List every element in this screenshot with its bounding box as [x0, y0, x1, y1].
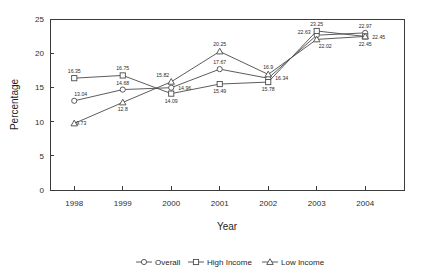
- x-tick-label: 2003: [308, 199, 326, 208]
- marker-square-high-income-1999: [120, 73, 125, 78]
- data-label-low-income-1998: 9.73: [76, 120, 86, 126]
- data-label-high-income-1999: 16.75: [116, 65, 129, 71]
- data-label-high-income-2000: 14.09: [165, 98, 178, 104]
- chart-container: 05101520251998199920002001200220032004Pe…: [0, 0, 432, 279]
- x-tick-label: 1999: [114, 199, 132, 208]
- data-label-overall-2002: 16.34: [275, 75, 288, 81]
- data-label-high-income-2003: 23.25: [310, 21, 323, 27]
- marker-circle-overall-2001: [217, 67, 222, 72]
- x-tick-label: 2002: [259, 199, 277, 208]
- data-label-low-income-2001: 20.25: [213, 41, 226, 47]
- data-label-low-income-2002: 16.9: [263, 64, 273, 70]
- marker-triangle-low-income-2000: [168, 79, 175, 85]
- line-chart: 05101520251998199920002001200220032004Pe…: [0, 0, 432, 279]
- marker-square-high-income-2003: [314, 28, 319, 33]
- y-tick-label: 0: [40, 186, 45, 195]
- x-tick-label: 1998: [65, 199, 83, 208]
- data-label-high-income-2002: 15.78: [262, 86, 275, 92]
- data-label-low-income-2003: 22.02: [319, 43, 332, 49]
- data-label-high-income-2004: 22.45: [372, 34, 385, 40]
- legend-marker-square: [193, 259, 198, 264]
- marker-circle-overall-2000: [169, 85, 174, 90]
- data-label-low-income-1999: 12.8: [118, 106, 128, 112]
- marker-triangle-low-income-2001: [216, 48, 223, 54]
- data-label-overall-2001: 17.67: [213, 59, 226, 65]
- marker-square-high-income-2000: [169, 91, 174, 96]
- y-tick-label: 25: [35, 15, 44, 24]
- marker-triangle-low-income-2002: [265, 71, 272, 77]
- legend-item-low-income[interactable]: Low Income: [262, 258, 325, 267]
- x-tick-label: 2000: [162, 199, 180, 208]
- x-axis-title: Year: [217, 221, 238, 232]
- y-axis-title: Percentage: [9, 78, 20, 130]
- plot-frame: [50, 19, 404, 190]
- y-tick-label: 20: [35, 49, 44, 58]
- marker-circle-overall-1998: [72, 98, 77, 103]
- marker-triangle-low-income-1999: [119, 99, 126, 105]
- y-tick-label: 10: [35, 118, 44, 127]
- legend-label: Low Income: [281, 258, 325, 267]
- y-tick-label: 15: [35, 83, 44, 92]
- legend-label: High Income: [207, 258, 252, 267]
- x-tick-label: 2001: [211, 199, 229, 208]
- data-label-overall-1998: 13.04: [74, 91, 87, 97]
- legend-marker-circle: [141, 259, 146, 264]
- data-label-low-income-2000: 15.82: [156, 72, 169, 78]
- marker-square-high-income-2002: [266, 79, 271, 84]
- marker-circle-overall-1999: [120, 87, 125, 92]
- data-label-overall-2004: 22.97: [359, 23, 372, 29]
- data-label-low-income-2004: 22.45: [359, 41, 372, 47]
- marker-square-high-income-1998: [72, 76, 77, 81]
- legend-label: Overall: [155, 258, 181, 267]
- legend-item-overall[interactable]: Overall: [136, 258, 181, 267]
- y-tick-label: 5: [40, 152, 45, 161]
- data-label-overall-1999: 14.68: [116, 80, 129, 86]
- data-label-high-income-2001: 15.49: [213, 88, 226, 94]
- data-label-overall-2003: 22.63: [298, 29, 311, 35]
- x-tick-label: 2004: [356, 199, 374, 208]
- data-label-high-income-1998: 16.35: [68, 68, 81, 74]
- legend-item-high-income[interactable]: High Income: [188, 258, 252, 267]
- marker-square-high-income-2001: [217, 81, 222, 86]
